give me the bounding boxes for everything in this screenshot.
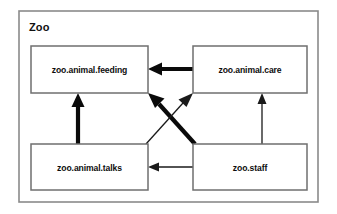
node-zoo-animal-feeding[interactable]: zoo.animal.feeding	[31, 46, 148, 93]
node-zoo-animal-talks[interactable]: zoo.animal.talks	[31, 144, 148, 190]
node-zoo-animal-care[interactable]: zoo.animal.care	[193, 46, 307, 93]
package-diagram: Zoo	[0, 0, 337, 214]
node-label-talks: zoo.animal.talks	[57, 163, 122, 173]
node-zoo-staff[interactable]: zoo.staff	[193, 144, 307, 190]
node-label-care: zoo.animal.care	[219, 65, 282, 75]
node-label-staff: zoo.staff	[233, 163, 268, 173]
node-label-feeding: zoo.animal.feeding	[52, 65, 128, 75]
diagram-canvas: Zoo	[0, 0, 337, 214]
package-title: Zoo	[29, 21, 50, 33]
